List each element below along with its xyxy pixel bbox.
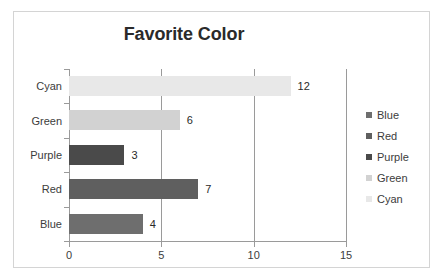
legend-swatch-icon xyxy=(366,112,372,118)
plot-area: 126374 xyxy=(69,69,346,241)
bar-green[interactable] xyxy=(69,110,180,130)
x-axis-line xyxy=(69,241,347,242)
legend-label: Blue xyxy=(377,108,399,122)
y-axis-label-red: Red xyxy=(2,181,62,197)
legend-label: Cyan xyxy=(377,192,403,206)
y-axis-tick xyxy=(64,103,69,104)
x-axis-label: 5 xyxy=(146,248,176,262)
y-axis-tick xyxy=(64,69,69,70)
bar-row: 12 xyxy=(69,69,346,103)
y-axis-tick xyxy=(64,172,69,173)
y-axis-tick xyxy=(64,207,69,208)
x-axis-labels: 051015 xyxy=(69,248,347,264)
chart-container: Favorite Color 126374 CyanGreenPurpleRed… xyxy=(13,11,430,268)
legend-item-purple[interactable]: Purple xyxy=(366,146,428,167)
bar-value-label: 3 xyxy=(131,147,137,163)
x-axis-tick xyxy=(254,242,255,247)
y-axis-tick xyxy=(64,138,69,139)
x-axis-label: 15 xyxy=(331,248,361,262)
bar-row: 6 xyxy=(69,103,346,137)
y-axis-labels: CyanGreenPurpleRedBlue xyxy=(7,69,62,241)
legend-swatch-icon xyxy=(366,133,372,139)
bar-value-label: 12 xyxy=(298,78,310,94)
x-axis-label: 0 xyxy=(54,248,84,262)
gridline xyxy=(346,69,347,241)
legend-swatch-icon xyxy=(366,154,372,160)
bar-red[interactable] xyxy=(69,179,198,199)
bar-cyan[interactable] xyxy=(69,76,291,96)
legend-label: Green xyxy=(377,171,408,185)
x-axis-tick xyxy=(161,242,162,247)
legend-item-blue[interactable]: Blue xyxy=(366,104,428,125)
bar-blue[interactable] xyxy=(69,214,143,234)
x-axis-label: 10 xyxy=(239,248,269,262)
y-axis-label-green: Green xyxy=(2,113,62,129)
bar-row: 3 xyxy=(69,138,346,172)
x-axis-tick xyxy=(69,242,70,247)
y-axis-label-purple: Purple xyxy=(2,147,62,163)
legend-swatch-icon xyxy=(366,196,372,202)
legend-item-cyan[interactable]: Cyan xyxy=(366,188,428,209)
bar-value-label: 4 xyxy=(150,216,156,232)
chart-title: Favorite Color xyxy=(14,24,354,45)
legend-swatch-icon xyxy=(366,175,372,181)
legend-item-red[interactable]: Red xyxy=(366,125,428,146)
legend-label: Purple xyxy=(377,150,409,164)
bar-value-label: 6 xyxy=(187,112,193,128)
bar-row: 7 xyxy=(69,172,346,206)
y-axis-label-cyan: Cyan xyxy=(2,78,62,94)
x-axis-tick xyxy=(346,242,347,247)
bar-value-label: 7 xyxy=(205,181,211,197)
y-axis-label-blue: Blue xyxy=(2,216,62,232)
legend-label: Red xyxy=(377,129,397,143)
bar-purple[interactable] xyxy=(69,145,124,165)
bar-row: 4 xyxy=(69,207,346,241)
legend-item-green[interactable]: Green xyxy=(366,167,428,188)
chart-legend: BlueRedPurpleGreenCyan xyxy=(366,104,428,209)
